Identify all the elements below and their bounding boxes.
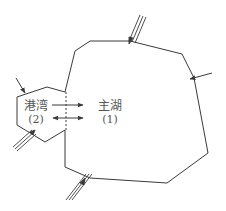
harbor-name: 港湾 bbox=[22, 100, 50, 112]
main-lake-boundary bbox=[65, 41, 208, 183]
river-inflow-harbor-icon bbox=[13, 130, 36, 151]
harbor-label: 港湾 (2) bbox=[22, 100, 50, 125]
main-lake-index: (1) bbox=[96, 114, 124, 125]
inflow-arrow-harbor-top bbox=[16, 78, 25, 93]
river-inflow-bottom-icon bbox=[66, 174, 92, 200]
river-inflow-top-icon bbox=[129, 15, 146, 44]
main-lake-label: 主湖 (1) bbox=[96, 100, 124, 125]
main-lake-name: 主湖 bbox=[96, 100, 124, 112]
harbor-index: (2) bbox=[22, 114, 50, 125]
